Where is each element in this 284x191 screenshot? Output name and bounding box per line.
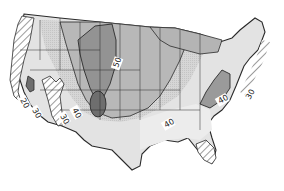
us-contour-map: 20 30 30 40 50 40 40 30	[0, 0, 284, 191]
region-darkest	[90, 91, 106, 117]
